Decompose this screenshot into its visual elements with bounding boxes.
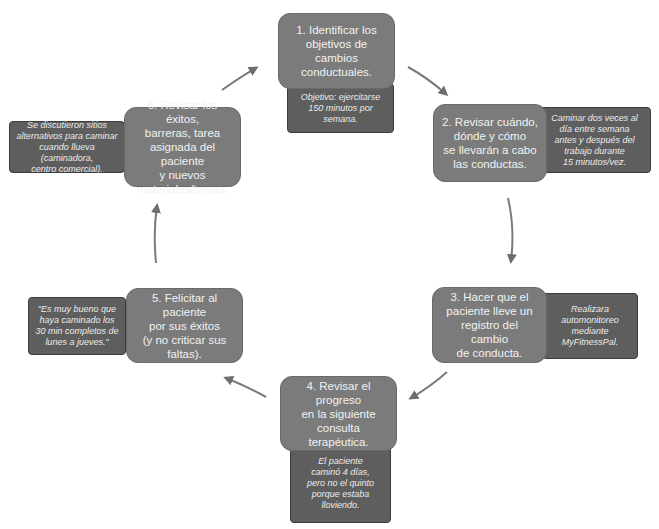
arrow-3-to-4 — [411, 372, 447, 398]
step-3-label: 3. Hacer que el paciente lleve un regist… — [441, 290, 538, 360]
step-5-box: 5. Felicitar al paciente por sus éxitos … — [126, 288, 243, 363]
step-3-box: 3. Hacer que el paciente lleve un regist… — [432, 287, 547, 363]
step-5-label: 5. Felicitar al paciente por sus éxitos … — [135, 291, 234, 361]
step-2-note: Caminar dos veces al día entre semana an… — [538, 107, 651, 173]
arrow-4-to-5 — [226, 378, 266, 397]
arrow-1-to-2 — [408, 67, 446, 94]
arrow-6-to-1 — [222, 68, 256, 90]
step-5-note: "Es muy bueno que haya caminado los 30 m… — [28, 297, 126, 355]
step-4-note: El paciente caminó 4 días, pero no el qu… — [290, 444, 391, 523]
step-3-note: Realizara automonitoreo mediante MyFitne… — [542, 293, 638, 359]
arrow-2-to-3 — [508, 198, 512, 261]
step-1-label: 1. Identificar los objetivos de cambios … — [287, 23, 386, 79]
step-4-box: 4. Revisar el progreso en la siguiente c… — [280, 376, 397, 451]
step-1-box: 1. Identificar los objetivos de cambios … — [278, 13, 395, 89]
step-1-note: Objetivo: ejercitarse 150 minutos por se… — [287, 83, 394, 133]
step-4-label: 4. Revisar el progreso en la siguiente c… — [289, 379, 388, 449]
step-6-box: 6. Revisar los éxitos, barreras, tarea a… — [124, 107, 241, 187]
arrow-5-to-6 — [155, 206, 157, 263]
step-2-label: 2. Revisar cuándo, dónde y cómo se lleva… — [442, 115, 538, 171]
step-6-note: Se discutieron sitios alternativos para … — [9, 121, 125, 173]
step-2-box: 2. Revisar cuándo, dónde y cómo se lleva… — [433, 104, 547, 182]
step-6-label: 6. Revisar los éxitos, barreras, tarea a… — [133, 98, 232, 196]
